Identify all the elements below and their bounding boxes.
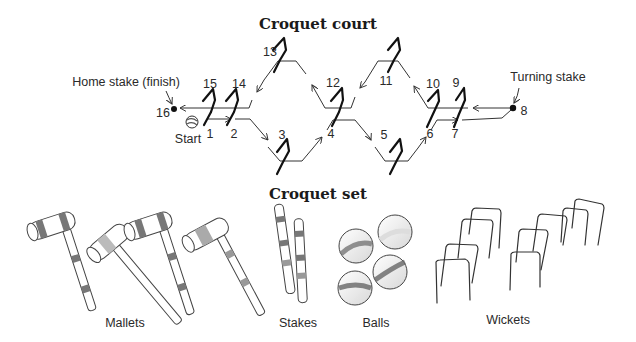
mallets-label: Mallets	[105, 316, 145, 330]
mallet-4-icon	[180, 215, 273, 332]
wickets-label: Wickets	[486, 313, 530, 327]
number-14: 14	[232, 77, 246, 91]
number-5: 5	[381, 128, 388, 142]
turning-stake-label: Turning stake	[510, 70, 585, 84]
croquet-court: Croquet court	[72, 15, 586, 174]
ball-2-icon	[378, 215, 412, 249]
number-9: 9	[453, 76, 460, 90]
croquet-diagram: Croquet court	[0, 0, 636, 342]
balls-illustration	[338, 215, 412, 305]
number-16: 16	[156, 106, 170, 120]
number-15: 15	[203, 77, 217, 91]
stakes-illustration	[274, 204, 307, 303]
mallet-1-icon	[25, 210, 103, 322]
stake-1-icon	[274, 204, 295, 294]
number-6: 6	[427, 127, 434, 141]
number-2: 2	[231, 127, 238, 141]
stake-2-icon	[294, 219, 307, 303]
wicket-11	[388, 38, 400, 72]
number-12: 12	[326, 76, 340, 90]
number-4: 4	[328, 127, 335, 141]
number-11: 11	[380, 74, 393, 88]
ball-1-icon	[339, 229, 373, 263]
wicket-14	[226, 89, 238, 125]
wickets-illustration	[436, 199, 604, 303]
number-10: 10	[426, 77, 440, 91]
turning-stake-icon	[510, 105, 516, 111]
court-title: Croquet court	[259, 15, 377, 33]
ball-3-icon	[373, 255, 407, 289]
number-3: 3	[279, 128, 286, 142]
outbound-path	[208, 110, 511, 161]
number-13: 13	[263, 45, 277, 59]
start-label: Start	[175, 132, 202, 146]
number-7: 7	[452, 127, 459, 141]
ball-4-icon	[338, 271, 372, 305]
set-title: Croquet set	[269, 185, 367, 203]
home-stake-icon	[171, 106, 177, 112]
balls-label: Balls	[362, 316, 389, 330]
return-path	[180, 61, 510, 108]
wicket-3	[277, 139, 289, 174]
number-1: 1	[207, 127, 214, 141]
start-ball-icon	[186, 116, 198, 128]
wickets-on-court	[203, 38, 465, 174]
wicket-15	[203, 89, 215, 112]
number-8: 8	[521, 104, 528, 118]
croquet-set: Croquet set	[25, 185, 604, 340]
home-stake-label: Home stake (finish)	[72, 75, 180, 89]
mallets-illustration	[25, 210, 273, 340]
wicket-5	[390, 139, 402, 174]
stakes-label: Stakes	[279, 316, 317, 330]
